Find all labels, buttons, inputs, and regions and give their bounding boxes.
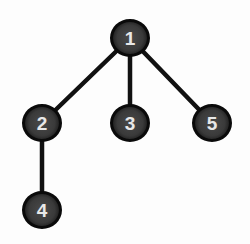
tree-diagram: 1 2 3 5 4 bbox=[0, 0, 250, 244]
tree-node-4: 4 bbox=[22, 191, 62, 229]
node-label: 3 bbox=[125, 114, 136, 133]
node-label: 5 bbox=[207, 114, 218, 133]
node-label: 4 bbox=[37, 201, 48, 220]
tree-node-5: 5 bbox=[192, 104, 232, 142]
node-label: 2 bbox=[37, 114, 48, 133]
node-label: 1 bbox=[125, 29, 136, 48]
tree-node-3: 3 bbox=[110, 104, 150, 142]
tree-node-2: 2 bbox=[22, 104, 62, 142]
tree-node-1: 1 bbox=[110, 19, 150, 57]
